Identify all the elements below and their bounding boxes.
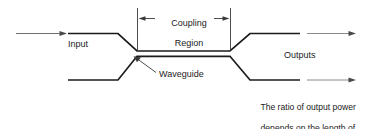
coupling-region-label-line1: Coupling <box>171 18 207 28</box>
input-arrow-icon <box>16 31 67 36</box>
waveguide-label: Waveguide <box>159 69 204 80</box>
output-arrow-top-icon <box>307 31 356 36</box>
waveguide-leader-arrow-icon <box>134 56 156 72</box>
coupling-region-label-line2: Region <box>175 38 204 48</box>
dimension-arrow-right-icon <box>214 16 230 21</box>
coupling-region-label: Coupling Region <box>152 8 216 58</box>
coupler-diagram: Coupling Region Input Waveguide Outputs … <box>0 0 369 129</box>
output-arrow-bottom-icon <box>307 77 356 82</box>
outputs-label: Outputs <box>284 50 316 61</box>
caption-line-1: The ratio of output power <box>260 102 356 112</box>
caption-note: The ratio of output power depends on the… <box>251 92 356 129</box>
input-label: Input <box>68 39 88 50</box>
caption-line-2: depends on the length of <box>261 123 356 129</box>
